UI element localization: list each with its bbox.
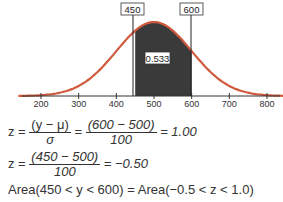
eq1-frac2-num: (600 − 500) [86,118,157,133]
eq2-frac-num: (450 − 500) [29,150,100,165]
eq2-frac-den: 100 [29,165,100,179]
eq2-lhs: z = [8,156,26,171]
x-tick-label: 300 [67,99,91,109]
eq1-frac1-num: (y − μ) [29,118,70,133]
equation-2: z = (450 − 500)100 = −0.50 [8,150,148,179]
label-600: 600 [184,4,200,15]
label-450: 450 [125,4,141,15]
x-tick-label: 500 [142,99,166,109]
x-tick-label: 700 [217,99,241,109]
equation-1: z = (y − μ)σ = (600 − 500)100 = 1.00 [8,118,197,147]
equation-3: Area(450 < y < 600) = Area(−0.5 < z < 1.… [8,182,254,197]
eq2-result: = −0.50 [104,156,148,171]
x-tick-label: 600 [180,99,204,109]
eq1-result: = 1.00 [160,124,197,139]
x-tick-label: 800 [255,99,279,109]
eq1-equals: = [74,124,82,139]
normal-curve-chart: 450 600 0.533 [0,0,283,100]
eq1-frac2-den: 100 [86,133,157,147]
eq1-lhs: z = [8,124,26,139]
eq1-frac1-den: σ [29,133,70,147]
label-area: 0.533 [146,53,170,64]
x-tick-label: 200 [29,99,53,109]
x-tick-label: 400 [104,99,128,109]
